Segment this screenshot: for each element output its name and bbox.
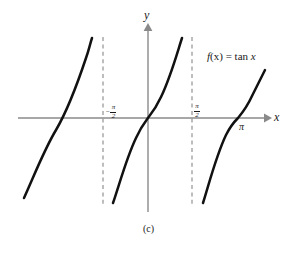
tangent-branch-right [203, 70, 265, 203]
plot-canvas [0, 0, 297, 253]
figure-caption: (c) [0, 224, 297, 234]
tick-label-half-pi: π 2 [194, 103, 200, 119]
function-expression: tan [235, 50, 248, 62]
fraction-denominator: 2 [194, 112, 200, 120]
fraction-numerator: π [111, 104, 117, 112]
fraction: π 2 [194, 103, 200, 119]
y-axis-label: y [144, 9, 149, 21]
tangent-function-figure: y x f(x) = tan x − π 2 π 2 π (c) [0, 0, 297, 253]
minus-sign: − [106, 108, 110, 116]
function-equals: = [223, 50, 235, 62]
function-argument: (x) [210, 50, 223, 62]
function-annotation: f(x) = tan x [207, 51, 256, 62]
x-axis-label: x [274, 111, 279, 123]
fraction-numerator: π [194, 103, 200, 111]
function-expression-argument: x [251, 50, 256, 62]
tick-label-pi: π [239, 122, 244, 132]
fraction: π 2 [110, 104, 116, 120]
tick-label-negative-half-pi: − π 2 [106, 104, 116, 120]
fraction-denominator: 2 [111, 113, 117, 121]
